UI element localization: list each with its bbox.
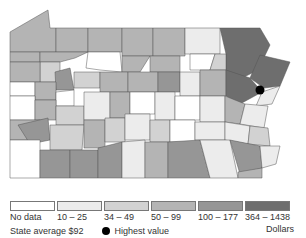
legend-swatch-34-49 <box>104 201 149 211</box>
legend: No data 10 – 25 34 – 49 50 – 99 100 – 17… <box>10 201 300 222</box>
county-polygons <box>10 10 290 178</box>
legend-units: Dollars <box>266 224 294 234</box>
legend-swatch-10-25 <box>57 201 102 211</box>
legend-swatch-50-99 <box>151 201 196 211</box>
highest-value-marker <box>256 86 265 95</box>
legend-label: 34 – 49 <box>104 212 149 222</box>
legend-label: 10 – 25 <box>57 212 102 222</box>
legend-label: 364 – 1438 <box>245 212 290 222</box>
highest-value-dot-icon <box>102 227 110 235</box>
legend-footer: State average $92 Highest value <box>10 226 169 236</box>
legend-swatch-364-1438 <box>245 201 290 211</box>
legend-label: 100 – 177 <box>198 212 243 222</box>
state-average: State average $92 <box>10 226 84 236</box>
legend-label: 50 – 99 <box>151 212 196 222</box>
highest-value-label: Highest value <box>115 226 170 236</box>
legend-swatch-100-177 <box>198 201 243 211</box>
legend-label: No data <box>10 212 55 222</box>
pennsylvania-county-map <box>0 0 306 192</box>
legend-swatch-no-data <box>10 201 55 211</box>
